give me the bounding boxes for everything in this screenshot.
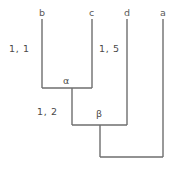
branch-label-b: 1, 1 (9, 44, 30, 54)
tree-lines-svg (0, 0, 173, 170)
leaf-label-d: d (124, 8, 130, 18)
node-label-alpha: α (63, 76, 69, 86)
node-label-beta: β (96, 109, 102, 119)
leaf-label-b: b (39, 8, 45, 18)
node-beta-lines (72, 125, 127, 157)
leaf-label-a: a (160, 8, 166, 18)
branch-label-alpha: 1, 2 (37, 107, 58, 117)
branch-label-d: 1, 5 (99, 44, 120, 54)
leaf-label-c: c (89, 8, 94, 18)
tree-diagram-canvas: b c d a α β 1, 1 1, 5 1, 2 (0, 0, 173, 170)
